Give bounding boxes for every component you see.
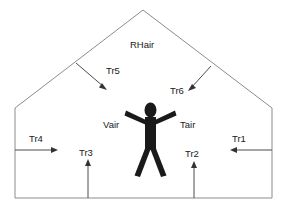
flow-arrow-tr6: Tr6 [170,66,211,96]
room-temperature-label: Tair [180,119,195,130]
figure-torso [145,117,156,150]
figure-arm-right [154,111,177,126]
figure-leg-right [150,146,167,177]
flow-label-tr2: Tr2 [185,148,199,159]
figure-arm-left [125,111,148,126]
flow-arrow-tr1: Tr1 [230,133,272,153]
occupant-figure [125,103,177,178]
room-volume-label: Vair [103,119,119,130]
flow-arrow-tr4: Tr4 [15,133,58,153]
figure-head [145,103,157,118]
flow-label-tr5: Tr5 [106,65,120,76]
flow-label-tr4: Tr4 [29,133,43,144]
flow-arrow-tr3: Tr3 [79,147,93,198]
figure-leg-left [135,146,152,177]
house-thermal-diagram: RHair Tr5 Tr6 Vair Tair [0,0,286,213]
attic-resistance-label: RHair [130,39,154,50]
flow-arrow-tr5: Tr5 [76,63,120,90]
flow-arrow-tr2: Tr2 [185,148,199,198]
flow-label-tr3: Tr3 [79,147,93,158]
flow-label-tr6: Tr6 [170,85,184,96]
flow-label-tr1: Tr1 [232,133,246,144]
diagram-canvas: RHair Tr5 Tr6 Vair Tair [0,0,286,213]
